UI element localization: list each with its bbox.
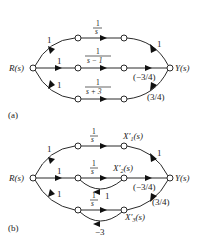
edge-a-top-to-y [127, 38, 168, 65]
node-a-mid-1 [75, 65, 81, 71]
gain-b-bot-out: (3/4) [152, 197, 170, 207]
gain-a-mid-out: (−3/4) [133, 72, 156, 82]
edge-a-r-to-bot [35, 70, 75, 99]
node-a-mid-2 [121, 65, 127, 71]
node-b-x1 [121, 143, 127, 149]
arrow-icon [100, 96, 107, 102]
svg-text:X′2(s): X′2(s) [112, 163, 133, 174]
node-a-top-1 [75, 35, 81, 41]
diagram-b: R(s) Y(s) 1 1 1 1 s 1 s 1 s X′1(s) X′2(s… [8, 127, 190, 237]
label-b-output: Y(s) [175, 173, 190, 183]
svg-text:X′1(s): X′1(s) [122, 131, 143, 142]
tf-a-bot-den: s + 3 [86, 87, 102, 96]
caption-b: (b) [8, 223, 19, 233]
diagram-a: R(s) Y(s) 1 1 1 1 s 1 s − 1 1 s + 3 1 (−… [8, 19, 190, 120]
node-a-output [167, 65, 173, 71]
gain-b-top-in: 1 [47, 144, 52, 154]
edge-b-mid-feedback [80, 180, 122, 189]
state-label-x3: X′3(s) [124, 212, 145, 223]
arrow-icon [150, 44, 157, 53]
svg-text:X′3(s): X′3(s) [124, 212, 145, 223]
tf-b-top-den: s [91, 135, 94, 144]
label-b-input: R(s) [8, 173, 24, 183]
gain-a-bot-in: 1 [57, 80, 62, 90]
gain-b-bot-in: 1 [57, 189, 62, 199]
signal-flow-graphs: R(s) Y(s) 1 1 1 1 s 1 s − 1 1 s + 3 1 (−… [0, 0, 205, 249]
arrow-icon [48, 46, 55, 54]
node-a-input [30, 65, 36, 71]
edge-b-r-to-top [35, 146, 75, 176]
state-label-x2: X′2(s) [112, 163, 133, 174]
arrow-icon [48, 157, 55, 164]
caption-a: (a) [8, 110, 18, 120]
arrow-icon [100, 35, 107, 41]
arrow-icon [100, 175, 107, 181]
tf-a-mid-den: s − 1 [87, 56, 102, 65]
arrow-icon [145, 175, 152, 181]
tf-a-bot-num: 1 [96, 78, 100, 87]
edge-b-r-to-bot [35, 180, 75, 210]
node-b-bot-1 [75, 207, 81, 213]
gain-b-bot-feedback: −3 [95, 227, 105, 237]
label-a-output: Y(s) [175, 63, 190, 73]
tf-a-mid-num: 1 [96, 47, 100, 56]
edge-b-bot-feedback [80, 212, 122, 221]
tf-b-mid-den: s [91, 167, 94, 176]
arrow-icon [100, 65, 107, 71]
edge-b-top-to-y [127, 146, 168, 176]
gain-b-mid-in: 1 [57, 166, 62, 176]
arrow-icon [100, 143, 107, 149]
gain-a-mid-in: 1 [57, 56, 62, 66]
arrow-icon [100, 207, 107, 213]
arrow-icon [145, 65, 152, 71]
gain-a-top-out: 1 [157, 39, 162, 49]
node-b-mid-1 [75, 175, 81, 181]
arrow-icon [48, 80, 55, 89]
node-a-top-2 [121, 35, 127, 41]
gain-b-mid-out: (−3/4) [133, 182, 156, 192]
gain-b-mid-feedback: 1 [105, 191, 110, 201]
gain-a-bot-out: (3/4) [147, 92, 165, 102]
gain-b-top-out: 1 [157, 148, 162, 158]
state-label-x1: X′1(s) [122, 131, 143, 142]
node-a-bot-1 [75, 96, 81, 102]
arrow-icon [48, 189, 55, 197]
node-b-x2 [121, 175, 127, 181]
node-a-bot-2 [121, 96, 127, 102]
label-a-input: R(s) [8, 63, 24, 73]
edge-a-r-to-top [35, 38, 75, 66]
tf-a-top-den: s [95, 27, 98, 36]
node-b-input [30, 175, 36, 181]
node-b-top-1 [75, 143, 81, 149]
gain-a-top-in: 1 [47, 35, 52, 45]
node-b-output [167, 175, 173, 181]
tf-b-bot-den: s [91, 199, 94, 208]
arrow-icon [150, 153, 157, 162]
